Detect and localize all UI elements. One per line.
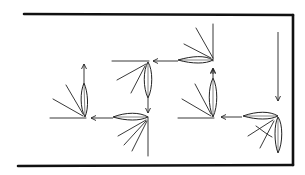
ray-line [53,99,83,116]
ray-line [184,44,211,58]
leaf-blade-icon [113,113,148,120]
leaf-node-4 [50,64,88,118]
ray-line [132,121,147,151]
leaf-node-2 [112,61,152,113]
ray-line [182,99,211,116]
frame [18,14,293,166]
leaf-blade-icon [243,112,278,119]
leaf-node-3 [91,113,148,156]
ray-line [131,66,145,93]
leaf-node-5 [178,69,217,118]
ray-line [196,28,213,58]
frame-top-edge [24,14,293,15]
frame-bottom-edge [18,165,293,166]
ray-line [66,85,83,114]
leaf-node-1 [153,24,213,74]
leaf-node-6 [221,112,282,153]
ray-line [195,84,211,114]
ray-line [118,120,146,136]
curved-ray-line [256,126,272,137]
path-diagram [0,0,305,175]
ray-line [248,120,273,136]
leaf-blade-icon [275,117,282,153]
ray-line [124,121,146,145]
